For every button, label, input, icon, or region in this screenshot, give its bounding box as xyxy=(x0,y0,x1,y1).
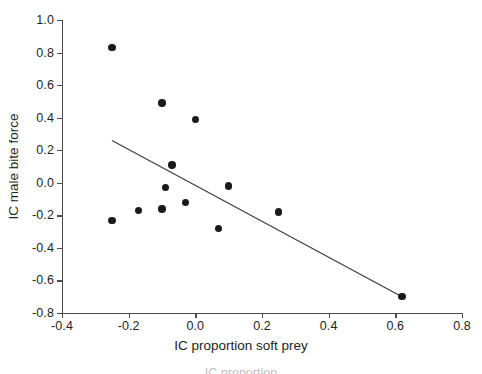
figure-caption-cropped: IC proportion xyxy=(0,366,482,374)
y-tick-label: 0.8 xyxy=(36,46,54,60)
data-point xyxy=(158,99,165,106)
x-tick-label: 0.4 xyxy=(320,319,338,333)
x-tick xyxy=(462,313,463,318)
x-tick-label: 0.0 xyxy=(186,319,204,333)
x-tick-label: -0.4 xyxy=(51,319,73,333)
y-axis-title-container: IC male bite force xyxy=(0,0,28,333)
x-tick xyxy=(195,313,196,318)
data-point xyxy=(108,44,115,51)
y-tick-label: 0.6 xyxy=(36,78,54,92)
data-point xyxy=(225,182,232,189)
data-point xyxy=(192,116,199,123)
y-tick-label: 1.0 xyxy=(36,13,54,27)
data-point xyxy=(182,199,189,206)
x-tick xyxy=(62,313,63,318)
plot-area: -0.8-0.6-0.4-0.20.00.20.40.60.81.0 -0.4-… xyxy=(62,20,462,313)
y-axis-title: IC male bite force xyxy=(7,114,22,220)
x-tick-label: 0.2 xyxy=(253,319,271,333)
y-tick-label: -0.6 xyxy=(32,273,54,287)
y-tick-label: 0.0 xyxy=(36,176,54,190)
data-point xyxy=(108,217,115,224)
figure-scatter-plot: IC male bite force -0.8-0.6-0.4-0.20.00.… xyxy=(0,0,482,374)
y-tick-label: -0.4 xyxy=(32,241,54,255)
data-point xyxy=(168,161,175,168)
x-tick-label: 0.6 xyxy=(386,319,404,333)
x-axis-title: IC proportion soft prey xyxy=(0,338,482,353)
x-tick xyxy=(129,313,130,318)
data-point xyxy=(158,205,165,212)
y-tick-label: -0.8 xyxy=(32,306,54,320)
x-tick-label: 0.8 xyxy=(453,319,471,333)
regression-line xyxy=(112,140,402,296)
y-tick-label: 0.2 xyxy=(36,143,54,157)
regression-line-layer xyxy=(62,20,462,313)
data-point xyxy=(275,208,282,215)
x-tick xyxy=(329,313,330,318)
y-tick-label: -0.2 xyxy=(32,208,54,222)
x-tick-label: -0.2 xyxy=(118,319,140,333)
x-tick xyxy=(262,313,263,318)
x-tick xyxy=(395,313,396,318)
y-tick-label: 0.4 xyxy=(36,111,54,125)
